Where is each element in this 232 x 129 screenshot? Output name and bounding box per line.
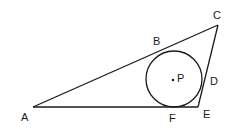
- label-f: F: [169, 112, 176, 124]
- segment-ce: [198, 25, 218, 107]
- geometry-diagram: A B C D E F P: [0, 0, 232, 129]
- segment-ac: [33, 25, 218, 107]
- label-b: B: [153, 35, 160, 47]
- center-point-p: [172, 79, 174, 81]
- label-e: E: [203, 108, 210, 120]
- label-c: C: [213, 9, 221, 21]
- label-a: A: [21, 111, 29, 123]
- inscribed-circle: [146, 51, 202, 107]
- label-p: P: [177, 72, 184, 84]
- label-d: D: [210, 75, 218, 87]
